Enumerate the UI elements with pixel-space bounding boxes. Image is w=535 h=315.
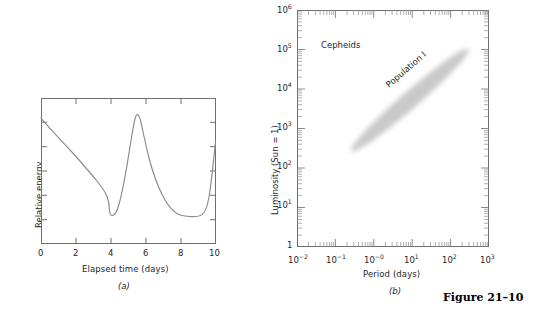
panel-b-ytick-4: 104 xyxy=(277,81,292,93)
panel-b-ytick-5: 105 xyxy=(277,42,292,54)
panel-a-right-ticks xyxy=(210,122,216,219)
panel-b-xtick-0: 10−2 xyxy=(288,253,308,265)
panel-a-plot-area xyxy=(41,98,216,244)
panel-a-top-ticks xyxy=(76,98,181,104)
panel-a-xtick-2: 4 xyxy=(108,248,113,258)
panel-a-x-axis-title: Elapsed time (days) xyxy=(82,264,169,274)
panel-b-ytick-0: 1 xyxy=(287,238,292,250)
panel-b-sublabel: (b) xyxy=(389,286,401,296)
figure-21-10: Relative energy xyxy=(0,0,535,315)
panel-a-xtick-3: 6 xyxy=(143,248,148,258)
panel-a-xtick-0: 0 xyxy=(38,248,43,258)
panel-a-xtick-5: 10 xyxy=(209,248,220,258)
panel-a: Relative energy xyxy=(0,0,265,315)
panel-b-ytick-3: 103 xyxy=(277,120,292,132)
panel-b-xtick-2: 10−0 xyxy=(364,253,384,265)
panel-a-light-curve xyxy=(41,115,216,217)
panel-b-xtick-3: 101 xyxy=(404,253,419,265)
panel-a-x-ticks xyxy=(42,238,216,244)
figure-caption: Figure 21–10 xyxy=(443,291,523,304)
panel-b-ytick-6: 106 xyxy=(277,3,292,15)
panel-b-xtick-4: 102 xyxy=(442,253,457,265)
panel-b-xtick-1: 10−1 xyxy=(326,253,346,265)
panel-b-annotation-cepheids: Cepheids xyxy=(321,40,360,50)
panel-b-x-axis-title: Period (days) xyxy=(363,269,420,279)
panel-a-xtick-1: 2 xyxy=(73,248,78,258)
panel-a-y-ticks xyxy=(41,122,47,219)
panel-a-sublabel: (a) xyxy=(118,281,130,291)
panel-a-xtick-4: 8 xyxy=(178,248,183,258)
panel-b-ytick-1: 101 xyxy=(277,198,292,210)
panel-b-xtick-5: 103 xyxy=(480,253,495,265)
panel-b-ytick-2: 102 xyxy=(277,159,292,171)
panel-b: Luminosity (Sun = 1) 106 105 104 103 102… xyxy=(265,0,535,315)
